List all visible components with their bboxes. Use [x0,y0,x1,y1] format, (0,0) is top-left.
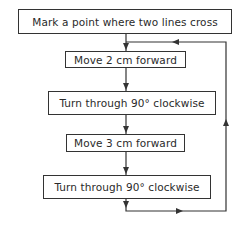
arrow-down-icon [123,43,129,50]
step-move-2cm: Move 2 cm forward [65,51,186,68]
arrow-left-icon [172,39,179,45]
step-label: Move 2 cm forward [74,54,177,66]
step-label: Mark a point where two lines cross [32,16,218,28]
step-move-3cm: Move 3 cm forward [66,134,185,152]
arrow-down-icon [123,201,129,208]
step-label: Move 3 cm forward [74,137,177,149]
arrow-up-icon [223,119,229,126]
step-label: Turn through 90° clockwise [59,97,204,109]
arrow-down-icon [123,126,129,133]
step-mark-point: Mark a point where two lines cross [18,9,232,34]
step-turn-90-first: Turn through 90° clockwise [48,91,216,115]
arrow-down-icon [123,83,129,90]
step-label: Turn through 90° clockwise [54,181,199,193]
arrow-right-icon [176,208,183,214]
step-turn-90-second: Turn through 90° clockwise [43,175,211,199]
arrow-down-icon [123,167,129,174]
